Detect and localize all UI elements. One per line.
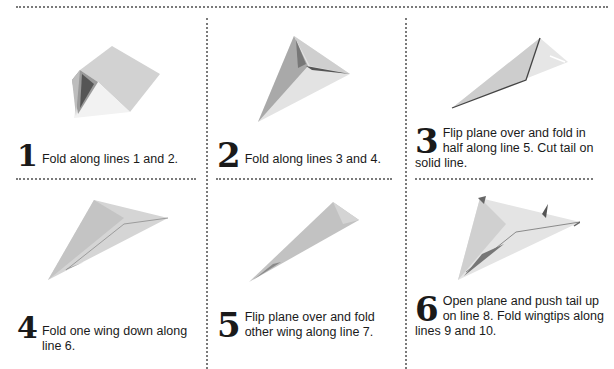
step-1-text: Fold along lines 1 and 2. xyxy=(42,152,178,166)
step-1: 1 Fold along lines 1 and 2. xyxy=(0,0,206,178)
step-3-number: 3 xyxy=(415,127,438,155)
paper-airplane-final-icon xyxy=(456,196,580,280)
step-4-number: 4 xyxy=(17,315,37,341)
step-6: 6 Open plane and push tail up on line 8.… xyxy=(406,180,614,369)
step-1-number: 1 xyxy=(17,143,37,169)
step-4: 4 Fold one wing down along line 6. xyxy=(0,180,206,369)
step-1-caption: 1 Fold along lines 1 and 2. xyxy=(17,142,202,169)
paper-fold-step-3-icon xyxy=(450,34,570,110)
step-2-text: Fold along lines 3 and 4. xyxy=(245,152,381,166)
paper-fold-step-2-icon xyxy=(252,34,352,126)
step-2-number: 2 xyxy=(217,141,240,169)
step-3-text: Flip plane over and fold in half along l… xyxy=(415,126,593,170)
step-6-number: 6 xyxy=(415,295,438,323)
step-5: 5 Flip plane over and fold other wing al… xyxy=(207,180,405,369)
step-6-text: Open plane and push tail up on line 8. F… xyxy=(415,294,604,338)
step-5-number: 5 xyxy=(217,311,240,339)
paper-fold-step-1-icon xyxy=(60,38,170,118)
step-6-caption: 6 Open plane and push tail up on line 8.… xyxy=(415,294,605,339)
step-5-text: Flip plane over and fold other wing alon… xyxy=(245,310,375,339)
paper-fold-step-5-icon xyxy=(247,200,359,282)
paper-fold-step-4-icon xyxy=(44,198,170,280)
step-5-caption: 5 Flip plane over and fold other wing al… xyxy=(217,310,405,340)
step-4-text: Fold one wing down along line 6. xyxy=(42,324,187,353)
step-3-caption: 3 Flip plane over and fold in half along… xyxy=(415,126,605,171)
step-2: 2 Fold along lines 3 and 4. xyxy=(207,0,405,178)
step-4-caption: 4 Fold one wing down along line 6. xyxy=(17,314,202,344)
step-3: 3 Flip plane over and fold in half along… xyxy=(406,0,614,178)
step-2-caption: 2 Fold along lines 3 and 4. xyxy=(217,140,402,169)
